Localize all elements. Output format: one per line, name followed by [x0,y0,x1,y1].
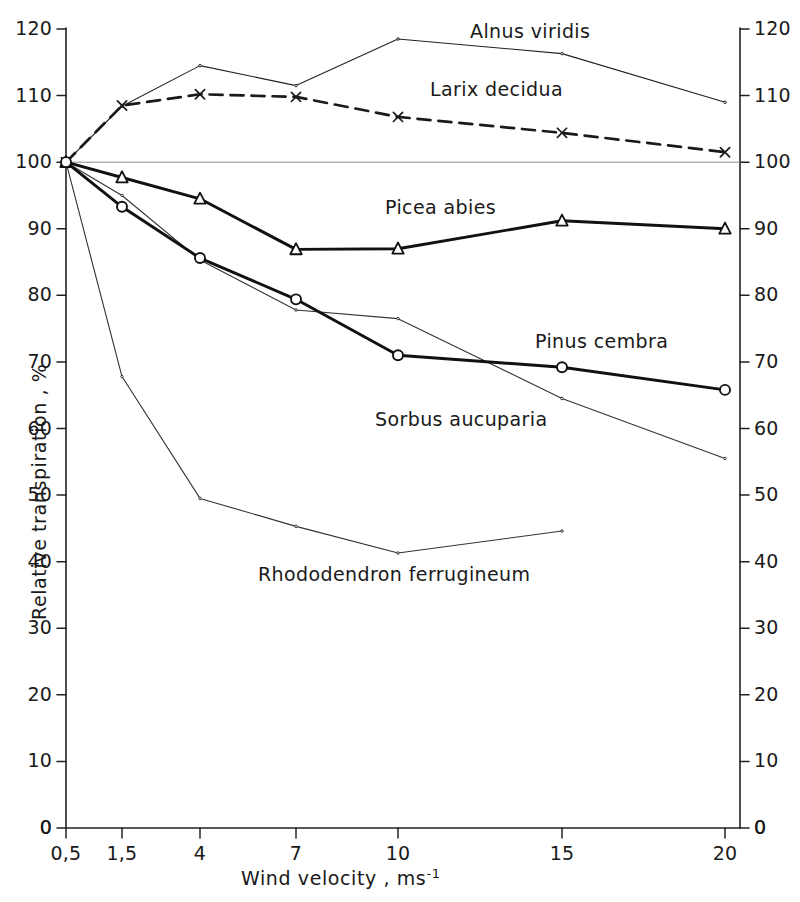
x-axis-title: Wind velocity , ms-1 [241,866,441,889]
chart-plot-area [0,0,800,902]
series-label-larix-decidua: Larix decidua [430,78,563,100]
y-axis-tick-label-right: 20 [754,683,779,705]
y-axis-tick-label-left: 10 [0,749,52,771]
y-axis-tick-label-left: 90 [0,217,52,239]
chart-figure: 0010102020303040405050606070708080909010… [0,0,800,902]
series-label-rhododendron-ferrugineum: Rhododendron ferrugineum [258,563,530,585]
x-axis-tick-label: 20 [695,842,755,864]
series-pinus-cembra [61,157,730,395]
x-axis-tick-label: 1,5 [92,842,152,864]
axes [57,28,749,838]
series-larix-decidua [61,90,729,167]
y-axis-tick-label-right: 80 [754,283,779,305]
x-axis-zero-label-right: 0 [754,816,766,838]
y-axis-tick-label-right: 10 [754,749,779,771]
y-axis-tick-label-right: 40 [754,550,779,572]
y-axis-tick-label-left: 120 [0,17,52,39]
y-axis-tick-label-left: 100 [0,150,52,172]
x-axis-tick-label: 10 [368,842,428,864]
x-axis-title-exponent: -1 [426,866,440,881]
y-axis-tick-label-right: 120 [754,17,791,39]
y-axis-tick-label-right: 110 [754,84,791,106]
x-axis-zero-label-left: 0 [0,816,52,838]
series-label-alnus-viridis: Alnus viridis [470,20,590,42]
data-series-group [60,38,730,555]
y-axis-tick-label-right: 70 [754,350,779,372]
x-axis-tick-label: 7 [266,842,326,864]
series-label-sorbus-aucuparia: Sorbus aucuparia [375,408,548,430]
series-label-picea-abies: Picea abies [385,196,496,218]
series-rhododendron-ferrugineum [66,162,563,554]
y-axis-tick-label-left: 20 [0,683,52,705]
y-axis-title: Relative transpiration , % [28,364,50,620]
x-axis-tick-label: 0,5 [36,842,96,864]
series-alnus-viridis [66,38,726,162]
y-axis-tick-label-left: 110 [0,84,52,106]
series-label-pinus-cembra: Pinus cembra [535,330,668,352]
y-axis-tick-label-right: 100 [754,150,791,172]
x-axis-tick-label: 15 [532,842,592,864]
y-axis-tick-label-right: 60 [754,417,779,439]
y-axis-tick-label-right: 90 [754,217,779,239]
y-axis-tick-label-left: 80 [0,283,52,305]
x-axis-tick-label: 4 [170,842,230,864]
y-axis-tick-label-right: 30 [754,616,779,638]
y-axis-tick-label-right: 50 [754,483,779,505]
